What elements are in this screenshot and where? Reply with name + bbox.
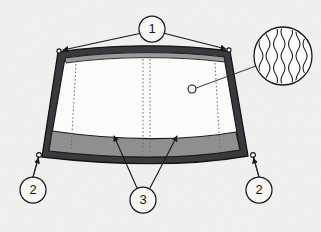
callout-2-right-label: 2 [255,182,262,197]
callout-1-label: 1 [148,21,155,36]
lower-left-corner-pip [37,153,42,158]
lower-right-corner-pip [251,153,256,158]
windshield-assembly [37,46,256,164]
upper-right-corner-pip [227,48,231,52]
upper-left-corner-pip [57,49,61,53]
callout-2-left-label: 2 [29,182,36,197]
detail-origin-marker[interactable] [188,85,196,93]
windshield-diagram-figure: 1 2 2 3 [0,0,321,232]
callout-3-label: 3 [139,192,146,207]
diagram-canvas: 1 2 2 3 [0,0,321,232]
